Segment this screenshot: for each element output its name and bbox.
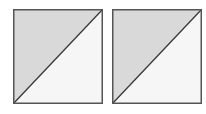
- half-square-triangle-left: [13, 9, 103, 104]
- split-square-icon: [112, 9, 202, 104]
- split-square-icon: [13, 9, 103, 104]
- half-square-triangle-right: [112, 9, 202, 104]
